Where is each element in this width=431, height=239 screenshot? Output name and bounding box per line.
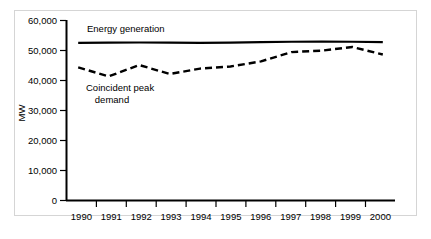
x-tick-label-2000: 2000 xyxy=(370,211,391,222)
y-tick-label-30000: 30,000 xyxy=(28,105,57,116)
annotation-coincident-peak-line1: Coincident peak xyxy=(86,82,154,93)
x-tick-label-1999: 1999 xyxy=(340,211,361,222)
x-tick-label-1998: 1998 xyxy=(310,211,331,222)
x-tick-label-1994: 1994 xyxy=(190,211,211,222)
plot-area-background xyxy=(66,20,395,200)
annotation-energy-generation: Energy generation xyxy=(87,23,165,34)
x-tick-label-1993: 1993 xyxy=(161,211,182,222)
y-axis-ticks xyxy=(60,21,66,201)
x-tick-label-1996: 1996 xyxy=(250,211,271,222)
series-line-energy-generation xyxy=(78,42,383,43)
y-tick-label-40000: 40,000 xyxy=(28,75,57,86)
y-tick-label-10000: 10,000 xyxy=(28,165,57,176)
x-tick-label-1991: 1991 xyxy=(101,211,122,222)
x-tick-label-1990: 1990 xyxy=(71,211,92,222)
annotation-coincident-peak-line2: demand xyxy=(95,94,129,105)
y-axis-title: MW xyxy=(16,105,27,122)
y-tick-label-20000: 20,000 xyxy=(28,135,57,146)
y-tick-label-0: 0 xyxy=(52,195,57,206)
y-tick-label-60000: 60,000 xyxy=(28,15,57,26)
energy-generation-vs-peak-demand-line-chart: 0 10,000 20,000 30,000 40,000 50,000 60,… xyxy=(0,0,431,239)
x-tick-label-1992: 1992 xyxy=(131,211,152,222)
chart-figure: 0 10,000 20,000 30,000 40,000 50,000 60,… xyxy=(0,0,431,239)
x-tick-label-1995: 1995 xyxy=(220,211,241,222)
y-tick-label-50000: 50,000 xyxy=(28,45,57,56)
x-tick-label-1997: 1997 xyxy=(280,211,301,222)
